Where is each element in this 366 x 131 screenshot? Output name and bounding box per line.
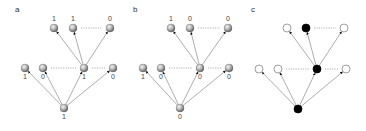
edge-arrow <box>45 72 62 104</box>
node-open <box>283 24 291 32</box>
node-sphere <box>139 64 147 72</box>
edge-arrow <box>280 73 296 105</box>
node-sphere <box>196 64 204 72</box>
edge-arrow <box>163 72 178 104</box>
node-value-label: 0 <box>178 113 182 120</box>
node-value-label: 0 <box>108 15 112 22</box>
node-value-label: 0 <box>198 73 202 80</box>
node-filled <box>294 105 302 113</box>
node-sphere <box>157 64 165 72</box>
node-sphere <box>69 24 77 32</box>
node-open <box>255 65 263 73</box>
node-sphere <box>50 24 58 32</box>
panel-b: b01000100 <box>133 5 233 120</box>
node-sphere <box>167 24 175 32</box>
edge-arrow <box>290 32 315 66</box>
node-sphere <box>21 64 29 72</box>
edge-arrow <box>86 32 107 65</box>
node-sphere <box>186 24 194 32</box>
node-open <box>342 65 350 73</box>
edge-arrow <box>183 71 225 106</box>
panel-label: c <box>251 5 255 14</box>
edge-arrow <box>74 32 83 64</box>
node-value-label: 1 <box>169 15 173 22</box>
panel-c: c <box>251 5 350 113</box>
edge-arrow <box>307 32 316 65</box>
node-value-label: 1 <box>141 73 145 80</box>
node-sphere <box>106 24 114 32</box>
tree-diagram-figure: a11010110b01000100c <box>0 0 366 131</box>
node-value-label: 0 <box>226 15 230 22</box>
node-value-label: 1 <box>23 73 27 80</box>
node-value-label: 1 <box>71 15 75 22</box>
node-open <box>274 65 282 73</box>
node-value-label: 0 <box>159 73 163 80</box>
panel-label: a <box>15 5 20 14</box>
node-sphere <box>60 104 68 112</box>
node-value-label: 0 <box>111 73 115 80</box>
edge-arrow <box>300 73 315 105</box>
edge-arrow <box>174 32 198 65</box>
edge-arrow <box>262 72 295 106</box>
node-filled <box>302 24 310 32</box>
node-sphere <box>109 64 117 72</box>
node-open <box>340 24 348 32</box>
edge-arrow <box>67 71 109 106</box>
node-value-label: 0 <box>188 15 192 22</box>
panels-layer: a11010110b01000100c <box>15 5 350 120</box>
node-value-label: 1 <box>52 15 56 22</box>
node-sphere <box>225 64 233 72</box>
node-filled <box>313 65 321 73</box>
edge-arrow <box>57 32 82 65</box>
node-value-label: 0 <box>227 73 231 80</box>
edge-arrow <box>319 32 341 66</box>
panel-a: a11010110 <box>15 5 117 120</box>
panel-label: b <box>133 5 138 14</box>
node-value-label: 1 <box>62 113 66 120</box>
node-value-label: 1 <box>82 73 86 80</box>
node-sphere <box>176 104 184 112</box>
edge-arrow <box>191 32 199 64</box>
node-sphere <box>80 64 88 72</box>
node-value-label: 0 <box>41 73 45 80</box>
edge-arrow <box>202 32 225 65</box>
node-sphere <box>224 24 232 32</box>
node-sphere <box>39 64 47 72</box>
